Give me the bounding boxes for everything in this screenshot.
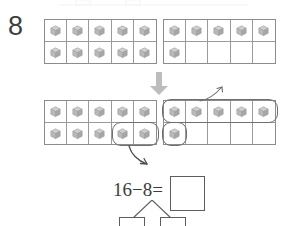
equation-text: 16−8= (113, 180, 163, 199)
frame-cell-empty (208, 42, 230, 64)
frame-cell (208, 20, 230, 42)
cube-block-icon (93, 46, 106, 59)
frame-cell (67, 123, 89, 145)
frame-cell (134, 123, 156, 145)
cube-block-icon (49, 46, 62, 59)
cube-block-icon (93, 105, 106, 118)
frame-cell (231, 20, 253, 42)
cube-block-icon (71, 105, 84, 118)
frame-cell (186, 101, 208, 123)
frame-cell-empty (253, 123, 275, 145)
frame-cell-empty (231, 123, 253, 145)
frame-cell-empty (253, 42, 275, 64)
frame-cell (45, 123, 67, 145)
ten-frame-bottom-left (44, 100, 157, 145)
cube-block-icon (116, 24, 129, 37)
frame-cell (112, 101, 134, 123)
cube-block-icon (116, 127, 129, 140)
cube-block-icon (116, 105, 129, 118)
cube-block-icon (138, 105, 151, 118)
cube-block-icon (168, 127, 181, 140)
cube-block-icon (190, 105, 203, 118)
frame-cell (45, 20, 67, 42)
frame-cell (112, 123, 134, 145)
frame-cell (134, 101, 156, 123)
cube-block-icon (257, 24, 270, 37)
frame-cell (89, 20, 111, 42)
cube-block-icon (71, 127, 84, 140)
cube-block-icon (212, 105, 225, 118)
cube-block-icon (190, 24, 203, 37)
cube-block-icon (138, 46, 151, 59)
problem-number: 8 (8, 13, 23, 40)
frame-cell (164, 101, 186, 123)
frame-cell-empty (231, 42, 253, 64)
curved-arrow-up-icon (198, 86, 232, 102)
frame-cell (208, 101, 230, 123)
cube-block-icon (49, 24, 62, 37)
cube-block-icon (212, 24, 225, 37)
frame-cell (253, 101, 275, 123)
frame-cell (67, 20, 89, 42)
number-bond-part-left[interactable] (119, 217, 145, 226)
frame-cell (45, 101, 67, 123)
frame-cell (134, 42, 156, 64)
cube-block-icon (138, 127, 151, 140)
worksheet-canvas: 8 (0, 0, 287, 226)
cube-block-icon (116, 46, 129, 59)
cube-block-icon (235, 24, 248, 37)
ten-frame-bottom-right (163, 100, 276, 145)
cube-block-icon (93, 24, 106, 37)
frame-cell (112, 42, 134, 64)
frame-cell (186, 20, 208, 42)
cube-block-icon (49, 105, 62, 118)
frame-cell (164, 42, 186, 64)
frame-cell (67, 42, 89, 64)
cube-block-icon (168, 24, 181, 37)
ten-frame-top-left (44, 19, 157, 64)
frame-cell (89, 123, 111, 145)
frame-cell-empty (208, 123, 230, 145)
cube-block-icon (71, 46, 84, 59)
frame-cell (45, 42, 67, 64)
cube-block-icon (257, 105, 270, 118)
frame-cell (231, 101, 253, 123)
frame-cell (89, 101, 111, 123)
ten-frame-top-right (163, 19, 276, 64)
curved-arrow-down-icon (128, 145, 158, 167)
cube-block-icon (71, 24, 84, 37)
cube-block-icon (49, 127, 62, 140)
frame-cell-empty (186, 123, 208, 145)
frame-cell-empty (186, 42, 208, 64)
cube-block-icon (168, 105, 181, 118)
frame-cell (164, 20, 186, 42)
cube-block-icon (138, 24, 151, 37)
number-bond-part-right[interactable] (160, 217, 186, 226)
cube-block-icon (235, 105, 248, 118)
cube-block-icon (93, 127, 106, 140)
cube-block-icon (168, 46, 181, 59)
frame-cell (164, 123, 186, 145)
frame-cell (67, 101, 89, 123)
frame-cell (112, 20, 134, 42)
page-top-remnant (58, 0, 248, 7)
frame-cell (89, 42, 111, 64)
down-arrow-icon (149, 72, 169, 96)
frame-cell (134, 20, 156, 42)
frame-cell (253, 20, 275, 42)
